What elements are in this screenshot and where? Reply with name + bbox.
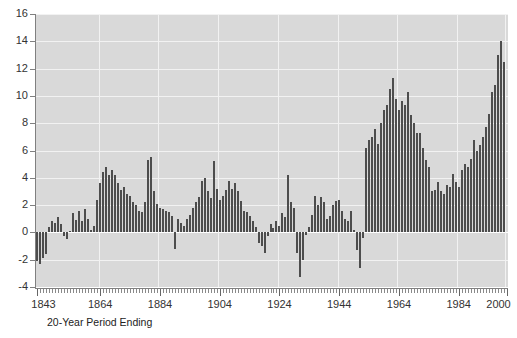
x-tick xyxy=(223,289,224,293)
bar xyxy=(482,137,484,233)
x-tick-label-1884: 1884 xyxy=(148,298,172,310)
x-tick xyxy=(187,289,188,293)
bar xyxy=(479,145,481,232)
x-tick-major-1924 xyxy=(279,289,280,296)
bar xyxy=(249,216,251,232)
x-tick-major-1984 xyxy=(459,289,460,296)
bar xyxy=(344,219,346,233)
x-tick xyxy=(372,289,373,293)
bar xyxy=(159,208,161,233)
x-tick xyxy=(118,289,119,293)
x-tick xyxy=(103,289,104,293)
bar xyxy=(84,209,86,232)
x-tick xyxy=(76,289,77,293)
bar xyxy=(201,181,203,233)
y-tick-label-2: 2 xyxy=(4,199,28,210)
bar xyxy=(183,226,185,233)
bar xyxy=(171,216,173,232)
x-tick xyxy=(112,289,113,293)
x-tick-major-1904 xyxy=(220,289,221,296)
bar xyxy=(284,217,286,232)
x-tick xyxy=(196,289,197,293)
x-tick xyxy=(438,289,439,293)
x-tick xyxy=(217,289,218,293)
x-tick xyxy=(190,289,191,293)
x-tick xyxy=(288,289,289,293)
x-tick xyxy=(163,289,164,293)
x-tick-label-1904: 1904 xyxy=(207,298,231,310)
bar xyxy=(419,133,421,233)
bar xyxy=(497,55,499,232)
bar xyxy=(308,227,310,232)
bar xyxy=(503,62,505,233)
bar xyxy=(392,78,394,232)
bar xyxy=(45,232,47,254)
bar xyxy=(147,160,149,232)
bar xyxy=(353,230,355,233)
bar xyxy=(93,226,95,233)
bar xyxy=(323,202,325,232)
bar xyxy=(210,198,212,232)
bar xyxy=(299,232,301,277)
bar xyxy=(258,232,260,243)
bar xyxy=(261,232,263,246)
x-tick xyxy=(444,289,445,293)
x-tick xyxy=(483,289,484,293)
x-tick xyxy=(157,289,158,293)
x-tick xyxy=(351,289,352,293)
bar xyxy=(350,211,352,233)
bar xyxy=(362,232,364,237)
bar xyxy=(317,205,319,232)
bar xyxy=(228,181,230,233)
x-tick xyxy=(378,289,379,293)
x-tick xyxy=(130,289,131,293)
y-axis-labels: 1614121086420-2-4 xyxy=(0,0,28,338)
bar xyxy=(272,228,274,232)
x-tick xyxy=(312,289,313,293)
bar xyxy=(458,187,460,232)
bar xyxy=(407,92,409,233)
bar xyxy=(431,191,433,232)
bar xyxy=(111,170,113,233)
x-tick xyxy=(250,289,251,293)
x-tick xyxy=(265,289,266,293)
x-tick xyxy=(67,289,68,293)
bar xyxy=(365,148,367,233)
bar xyxy=(332,205,334,232)
bar xyxy=(401,101,403,232)
x-tick-label-1924: 1924 xyxy=(267,298,291,310)
bar xyxy=(138,211,140,233)
x-tick xyxy=(142,289,143,293)
x-tick xyxy=(504,289,505,293)
bar xyxy=(36,232,38,261)
x-tick xyxy=(318,289,319,293)
bar xyxy=(39,232,41,263)
x-tick-label-1984: 1984 xyxy=(446,298,470,310)
x-tick xyxy=(456,289,457,293)
x-tick xyxy=(244,289,245,293)
bar xyxy=(51,221,53,232)
bar xyxy=(132,202,134,232)
bar xyxy=(293,208,295,233)
x-tick xyxy=(477,289,478,293)
x-tick xyxy=(253,289,254,293)
x-tick xyxy=(73,289,74,293)
bar xyxy=(383,110,385,233)
x-tick xyxy=(70,289,71,293)
x-tick xyxy=(423,289,424,293)
bar xyxy=(99,183,101,232)
x-tick xyxy=(178,289,179,293)
bar xyxy=(192,208,194,233)
bar xyxy=(96,200,98,233)
x-tick-label-2000: 2000 xyxy=(486,298,510,310)
bar xyxy=(156,204,158,233)
x-tick xyxy=(396,289,397,293)
x-tick xyxy=(315,289,316,293)
bar xyxy=(81,221,83,232)
x-tick xyxy=(300,289,301,293)
y-tick-8 xyxy=(30,123,35,124)
x-tick xyxy=(390,289,391,293)
y-tick-label--2: -2 xyxy=(4,254,28,265)
bar xyxy=(302,232,304,259)
x-tick xyxy=(205,289,206,293)
